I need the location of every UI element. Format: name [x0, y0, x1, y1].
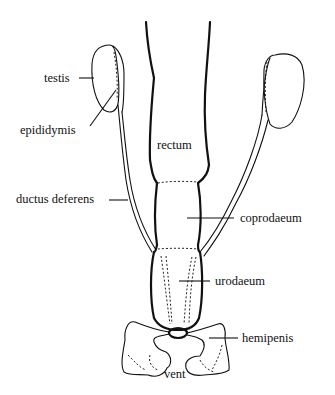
label-hemipenis: hemipenis	[242, 331, 294, 345]
right-testis-structure	[200, 54, 304, 256]
label-urodaeum: urodaeum	[215, 274, 265, 288]
label-vent: vent	[164, 367, 186, 381]
label-ductus-deferens: ductus deferens	[16, 192, 94, 206]
label-testis: testis	[44, 71, 70, 85]
left-testis-structure	[92, 45, 156, 252]
label-rectum: rectum	[157, 138, 192, 152]
urodaeum-structure	[151, 252, 202, 330]
leader-epididymis	[90, 90, 116, 126]
label-epididymis: epididymis	[20, 123, 76, 137]
label-coprodaeum: coprodaeum	[240, 211, 302, 225]
rectum-structure	[146, 22, 210, 183]
hemipenis-right	[186, 324, 229, 376]
anatomy-diagram: testis epididymis ductus deferens rectum…	[0, 0, 335, 395]
